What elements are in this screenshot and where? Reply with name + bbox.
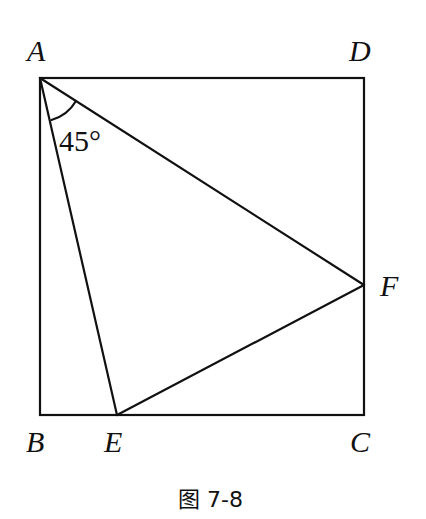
point-label-b: B	[26, 425, 44, 458]
segment-ef	[117, 285, 364, 415]
point-label-c: C	[350, 425, 371, 458]
point-label-e: E	[103, 425, 122, 458]
geometry-figure: A D B E C F 45° 图 7-8	[0, 0, 426, 519]
point-label-f: F	[379, 269, 399, 302]
angle-label: 45°	[59, 124, 101, 157]
figure-caption: 图 7-8	[178, 487, 243, 512]
segment-af	[40, 78, 364, 285]
point-label-d: D	[348, 34, 371, 67]
angle-arc-eaf	[52, 101, 77, 120]
point-label-a: A	[25, 34, 46, 67]
